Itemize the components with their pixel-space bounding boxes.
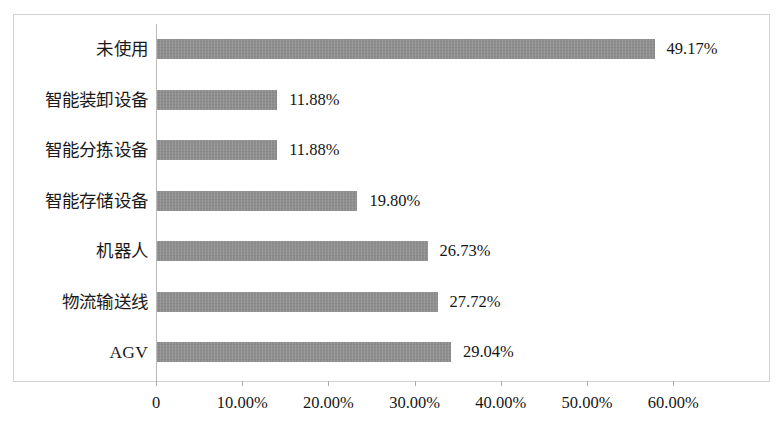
axis-tick-label: 10.00% [217, 390, 268, 416]
bar-value-label: 11.88% [289, 140, 339, 160]
bar-segment[interactable] [157, 241, 428, 261]
bar-segment[interactable] [157, 90, 277, 110]
bar-chart: 未使用 49.17% 智能装卸设备 11.88% 智能分拣设备 11.88% 智… [0, 0, 784, 421]
chart-row: AGV 29.04% [0, 327, 784, 377]
bar-value-label: 29.04% [463, 342, 514, 362]
axis-tick-label: 20.00% [303, 390, 354, 416]
category-label: 智能装卸设备 [45, 75, 148, 125]
axis-tick-mark [587, 381, 588, 386]
bar-value-label: 11.88% [289, 90, 339, 110]
category-label: 智能存储设备 [45, 176, 148, 226]
axis-tick-label: 40.00% [475, 390, 526, 416]
bar-value-label: 49.17% [667, 39, 718, 59]
category-label: AGV [109, 327, 148, 377]
bar-segment[interactable] [157, 292, 438, 312]
bar-value-label: 27.72% [450, 292, 501, 312]
bar-segment[interactable] [157, 191, 357, 211]
chart-row: 未使用 49.17% [0, 24, 784, 74]
axis-tick-mark [328, 381, 329, 386]
category-label: 物流输送线 [62, 277, 148, 327]
bar-value-label: 26.73% [440, 241, 491, 261]
axis-tick-mark [673, 381, 674, 386]
bar-segment[interactable] [157, 39, 655, 59]
axis-tick-label: 0 [152, 390, 160, 416]
category-label: 机器人 [96, 226, 148, 276]
bar-segment[interactable] [157, 342, 451, 362]
value-axis-tick-labels: 010.00%20.00%30.00%40.00%50.00%60.00% [0, 390, 784, 416]
chart-row: 物流输送线 27.72% [0, 277, 784, 327]
axis-tick-mark [415, 381, 416, 386]
chart-row: 智能装卸设备 11.88% [0, 75, 784, 125]
category-label: 未使用 [96, 24, 148, 74]
axis-tick-label: 50.00% [562, 390, 613, 416]
category-label: 智能分拣设备 [45, 125, 148, 175]
axis-tick-label: 60.00% [648, 390, 699, 416]
value-axis-ticks [0, 381, 784, 389]
axis-tick-mark [242, 381, 243, 386]
bar-value-label: 19.80% [369, 191, 420, 211]
bar-segment[interactable] [157, 140, 277, 160]
chart-row: 机器人 26.73% [0, 226, 784, 276]
axis-tick-mark [156, 381, 157, 386]
axis-tick-mark [501, 381, 502, 386]
axis-tick-label: 30.00% [389, 390, 440, 416]
chart-row: 智能分拣设备 11.88% [0, 125, 784, 175]
chart-row: 智能存储设备 19.80% [0, 176, 784, 226]
